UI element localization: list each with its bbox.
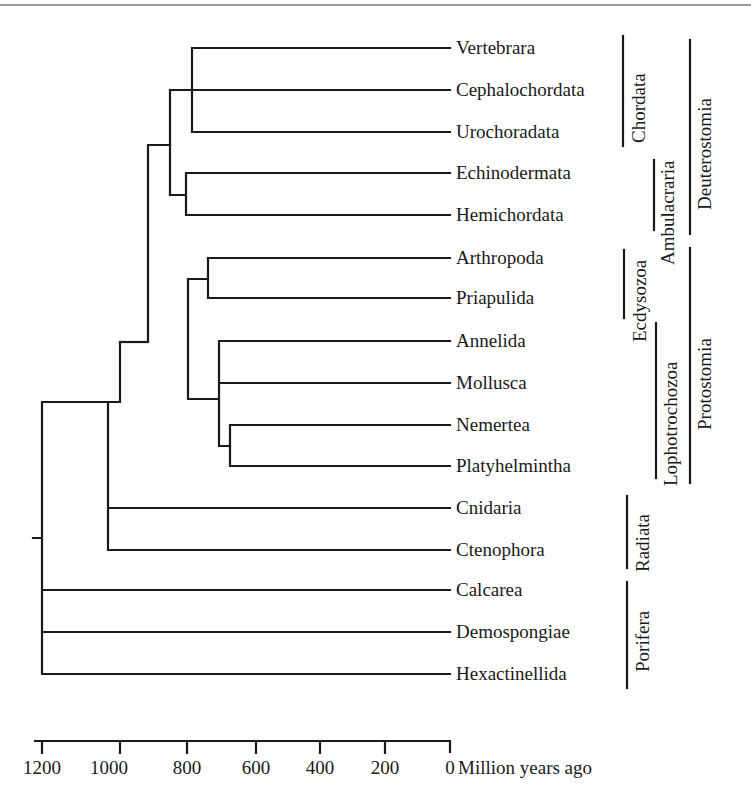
time-axis-line <box>35 741 450 752</box>
tick-label-200: 200 <box>371 757 400 779</box>
clade-label-porifera: Porifera <box>632 611 654 672</box>
leaf-label-platyhelmintha: Platyhelmintha <box>456 456 571 475</box>
tick-label-600: 600 <box>242 757 271 779</box>
root-stem <box>33 402 450 674</box>
leaf-label-mollusca: Mollusca <box>456 373 527 392</box>
clade-label-radiata: Radiata <box>632 514 654 572</box>
clade-label-deuterostomia: Deuterostomia <box>694 98 716 210</box>
leaf-label-annelida: Annelida <box>456 331 526 350</box>
ambulacraria-branch <box>170 173 450 215</box>
ecdysozoa-branch <box>188 258 450 298</box>
leaf-label-demospongiae: Demospongiae <box>456 622 570 641</box>
bilateria-eumetazoa-join <box>108 342 120 402</box>
leaf-label-cnidaria: Cnidaria <box>456 498 521 517</box>
tick-label-800: 800 <box>173 757 202 779</box>
tick-label-1000: 1000 <box>90 757 128 779</box>
clade-label-protostomia: Protostomia <box>694 338 716 430</box>
tick-label-1200: 1200 <box>23 757 61 779</box>
leaf-label-urochoradata: Urochoradata <box>456 122 559 141</box>
lophotrochozoa-branch <box>219 341 450 446</box>
clade-label-ecdysozoa: Ecdysozoa <box>629 260 651 342</box>
tick-label-0: 0 <box>445 757 455 779</box>
axis-title: Million years ago <box>458 757 592 779</box>
tick-label-400: 400 <box>306 757 335 779</box>
clade-label-ambulacraria: Ambulacraria <box>657 161 679 265</box>
leaf-label-ctenophora: Ctenophora <box>456 540 545 559</box>
leaf-label-arthropoda: Arthropoda <box>456 248 544 267</box>
clade-label-chordata: Chordata <box>628 73 650 143</box>
chordata-branch <box>170 48 450 132</box>
leaf-label-vertebrara: Vertebrara <box>456 38 535 57</box>
deuterostomia-stem <box>148 145 170 342</box>
leaf-label-hexactinellida: Hexactinellida <box>456 664 567 683</box>
leaf-label-echinodermata: Echinodermata <box>456 163 571 182</box>
leaf-label-cephalochordata: Cephalochordata <box>456 80 585 99</box>
leaf-label-hemichordata: Hemichordata <box>456 205 564 224</box>
clade-label-lophotrochozoa: Lophotrochozoa <box>660 361 682 486</box>
leaf-label-priapulida: Priapulida <box>456 288 534 307</box>
leaf-label-nemertea: Nemertea <box>456 415 530 434</box>
leaf-label-calcarea: Calcarea <box>456 580 522 599</box>
time-axis-ticks <box>42 741 385 753</box>
nemertea-platy-branch <box>230 425 450 466</box>
